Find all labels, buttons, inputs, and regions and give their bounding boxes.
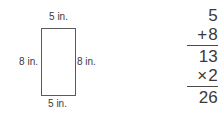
rectangle-right-dimension-label: 8 in. <box>77 56 96 68</box>
sum-value: 13 <box>199 47 218 66</box>
plus-operator-icon: + <box>197 25 207 44</box>
second-addend-value: 8 <box>208 25 218 44</box>
math-row-second-addend: + 8 <box>197 25 218 44</box>
multiplier-value: 2 <box>208 66 218 85</box>
rectangle-figure-panel: 5 in. 8 in. 8 in. 5 in. <box>0 0 150 120</box>
addition-rule-divider <box>187 45 218 46</box>
multiply-operator-icon: × <box>197 66 207 85</box>
arithmetic-work-panel: 5 + 8 13 × 2 26 <box>172 6 218 107</box>
math-row-multiplier: × 2 <box>197 66 218 85</box>
rectangle-shape <box>41 28 76 96</box>
rectangle-bottom-dimension-label: 5 in. <box>40 98 75 110</box>
math-row-sum: 13 <box>199 47 218 66</box>
multiplication-rule-divider <box>187 86 218 87</box>
figure-screenshot: 5 in. 8 in. 8 in. 5 in. 5 + 8 13 × 2 26 <box>0 0 224 120</box>
product-value: 26 <box>199 88 218 107</box>
math-row-first-addend: 5 <box>208 6 218 25</box>
math-row-product: 26 <box>199 88 218 107</box>
rectangle-left-dimension-label: 8 in. <box>2 56 38 68</box>
rectangle-top-dimension-label: 5 in. <box>41 11 76 23</box>
first-addend-value: 5 <box>208 6 218 25</box>
